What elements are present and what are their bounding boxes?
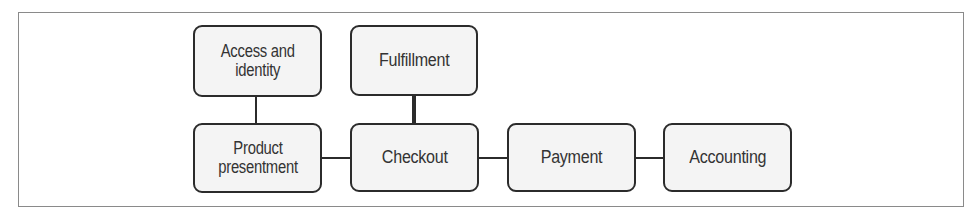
node-label: Checkout	[382, 148, 448, 167]
diagram-frame	[18, 12, 964, 207]
node-payment: Payment	[507, 123, 636, 192]
node-label: Payment	[541, 148, 603, 167]
edge-product-checkout	[321, 157, 351, 159]
node-product-presentment: Productpresentment	[193, 123, 322, 193]
node-label-line: identity	[220, 61, 294, 80]
node-label-line: Product	[218, 139, 298, 158]
node-label: Fulfillment	[379, 51, 449, 70]
node-label: Accounting	[689, 148, 766, 167]
node-accounting: Accounting	[663, 123, 792, 192]
edge-fulfillment-checkout	[412, 95, 416, 124]
node-label-line: presentment	[218, 158, 298, 177]
edge-checkout-payment	[478, 157, 508, 159]
edge-payment-accounting	[635, 157, 664, 159]
edge-access-product	[255, 96, 257, 124]
node-fulfillment: Fulfillment	[350, 25, 478, 96]
node-access-and-identity: Access andidentity	[193, 25, 322, 97]
node-checkout: Checkout	[350, 123, 479, 192]
node-label-line: Access and	[220, 42, 294, 61]
